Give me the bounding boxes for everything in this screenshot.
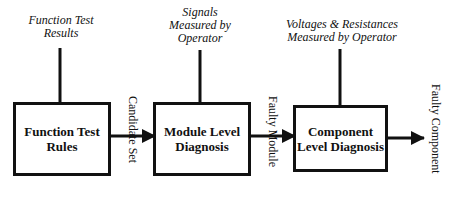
input-line: Measured by Operator bbox=[272, 31, 412, 44]
label-candidate-set: Candidate Set bbox=[125, 96, 140, 163]
block-line: Diagnosis bbox=[164, 139, 240, 154]
block-line: Component bbox=[297, 124, 384, 139]
block-module-level-diagnosis: Module Level Diagnosis bbox=[153, 102, 251, 176]
block-component-level-diagnosis: Component Level Diagnosis bbox=[293, 105, 388, 172]
input-function-test-results: Function Test Results bbox=[8, 14, 114, 40]
input-voltages-resistances: Voltages & Resistances Measured by Opera… bbox=[272, 18, 412, 44]
label-faulty-module: Faulty Module bbox=[265, 96, 280, 167]
block-function-test-rules: Function Test Rules bbox=[13, 102, 111, 176]
block-line: Module Level bbox=[164, 124, 240, 139]
block-line: Rules bbox=[24, 139, 100, 154]
input-line: Operator bbox=[150, 32, 250, 45]
block-line: Level Diagnosis bbox=[297, 139, 384, 154]
label-faulty-component: Faulty Component bbox=[428, 84, 443, 174]
block-line: Function Test bbox=[24, 124, 100, 139]
input-line: Results bbox=[8, 27, 114, 40]
input-signals-measured: Signals Measured by Operator bbox=[150, 6, 250, 45]
